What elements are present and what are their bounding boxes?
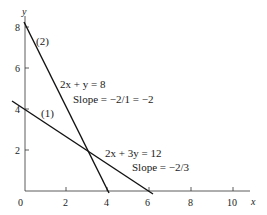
origin-label: 0 (18, 197, 23, 208)
y-tick-label-2: 2 (15, 145, 20, 156)
line-1-equation: 2x + 3y = 12 (105, 147, 161, 159)
x-tick-label-6: 6 (145, 197, 150, 208)
x-tick-label-8: 8 (188, 197, 193, 208)
y-tick-label-8: 8 (15, 22, 20, 33)
line-1-name: (1) (41, 107, 54, 120)
x-tick-label-10: 10 (227, 197, 237, 208)
line-2-equation: 2x + y = 8 (60, 78, 106, 90)
y-tick-label-6: 6 (15, 63, 20, 74)
x-axis-label: x (250, 196, 256, 207)
line-2 (24, 22, 109, 193)
line-1-slope: Slope = −2/3 (132, 161, 190, 173)
x-tick-label-2: 2 (63, 197, 68, 208)
line-2-slope: Slope = −2/1 = −2 (73, 93, 153, 105)
x-tick-label-4: 4 (104, 197, 109, 208)
y-axis-label: y (21, 6, 27, 17)
line-2-name: (2) (36, 35, 49, 48)
linear-equations-chart: 0 2 4 6 8 10 x 2 4 6 8 y (2) 2x + y = 8 … (0, 0, 267, 215)
